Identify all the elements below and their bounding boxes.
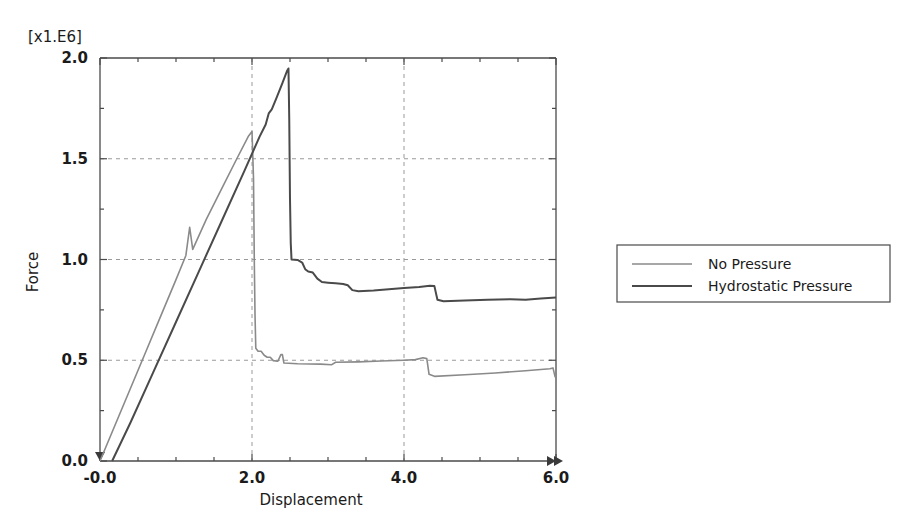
x-tick-label: 6.0 bbox=[543, 469, 570, 487]
y-tick-label: 1.0 bbox=[61, 251, 88, 269]
x-tick-label: 4.0 bbox=[391, 469, 418, 487]
y-tick-label: 0.0 bbox=[61, 452, 88, 470]
y-tick-label: 1.5 bbox=[61, 150, 88, 168]
legend-label-no-pressure: No Pressure bbox=[708, 256, 791, 272]
x-axis-title: Displacement bbox=[259, 491, 362, 509]
y-axis-title: Force bbox=[24, 252, 42, 293]
x-tick-label: -0.0 bbox=[84, 469, 117, 487]
y-tick-label: 2.0 bbox=[61, 49, 88, 67]
scale-multiplier-label: [x1.E6] bbox=[28, 28, 82, 46]
force-displacement-chart: [x1.E6] 0.00.51.01.52.0-0.02.04.06.0 Dis… bbox=[0, 0, 909, 521]
y-tick-label: 0.5 bbox=[61, 351, 88, 369]
legend-label-hydrostatic-pressure: Hydrostatic Pressure bbox=[708, 278, 852, 294]
x-tick-label: 2.0 bbox=[239, 469, 266, 487]
chart-legend: No Pressure Hydrostatic Pressure bbox=[617, 245, 890, 302]
